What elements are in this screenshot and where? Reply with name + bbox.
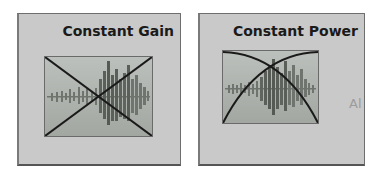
partial-label: Al [349,96,362,111]
constant-gain-icon [44,56,153,137]
transition-label: Constant Power [233,23,358,39]
transition-constant-gain[interactable]: Constant Gain [17,13,181,166]
transition-label: Constant Gain [62,23,174,39]
constant-power-icon [222,50,319,124]
transition-constant-power[interactable]: Constant Power [198,13,365,166]
